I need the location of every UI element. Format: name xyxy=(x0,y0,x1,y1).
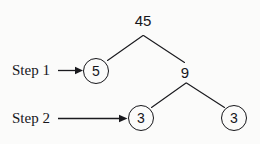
node-root-value: 45 xyxy=(131,13,155,28)
branch-nine-to-leaf-right xyxy=(187,83,225,108)
step-2-label: Step 2 xyxy=(12,111,50,126)
step-2-arrow xyxy=(58,115,128,122)
node-leaf-left-circle: 3 xyxy=(128,105,154,131)
factor-tree-diagram: 45 5 9 3 3 Step 1 Step 2 xyxy=(0,0,260,144)
branch-nine-to-leaf-left xyxy=(152,83,187,108)
node-leaf-right-circle: 3 xyxy=(221,105,247,131)
node-left-child-circle: 5 xyxy=(83,58,109,84)
step-1-arrow xyxy=(58,67,83,74)
branch-root-to-left xyxy=(108,36,144,61)
node-leaf-left-value: 3 xyxy=(137,111,145,125)
branch-root-to-right xyxy=(144,36,185,63)
node-left-child-value: 5 xyxy=(92,64,100,78)
node-leaf-right-value: 3 xyxy=(230,111,238,125)
node-right-child-value: 9 xyxy=(177,65,193,80)
step-1-label: Step 1 xyxy=(12,63,50,78)
